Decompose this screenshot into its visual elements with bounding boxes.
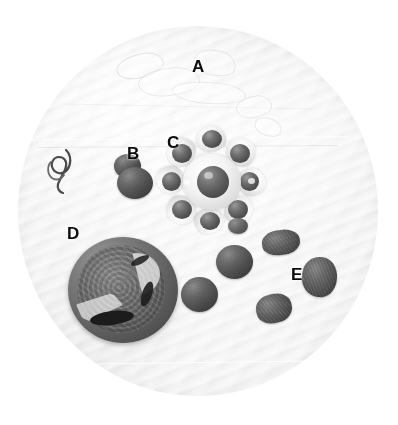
tendril-icon: [42, 148, 86, 196]
capsule-chamber-seed: [172, 200, 192, 219]
seed: [117, 167, 153, 199]
label-d: D: [67, 225, 79, 242]
capsule-chamber-seed: [202, 130, 222, 148]
specular-highlight: [248, 178, 255, 184]
loose-seed: [216, 245, 253, 279]
membrane-fragment: [171, 79, 246, 106]
capsule-central-seed: [197, 166, 229, 198]
label-a: A: [192, 58, 204, 75]
capsule-chamber-seed: [230, 144, 250, 163]
specimen-tendril: [42, 148, 86, 196]
specimen-d-fruit: [68, 237, 178, 343]
label-b: B: [127, 145, 139, 162]
specimen-a-membranes: [108, 40, 258, 110]
label-e: E: [291, 266, 302, 283]
specular-highlight: [184, 180, 190, 185]
capsule-chamber-seed: [162, 172, 181, 191]
specular-highlight: [204, 172, 213, 179]
loose-seed: [181, 277, 218, 312]
capsule-chamber-seed: [200, 212, 220, 230]
figure-plate: A B C D E: [0, 0, 398, 425]
hairline-streak: [58, 360, 348, 365]
label-c: C: [167, 134, 179, 151]
loose-seed: [228, 218, 248, 234]
